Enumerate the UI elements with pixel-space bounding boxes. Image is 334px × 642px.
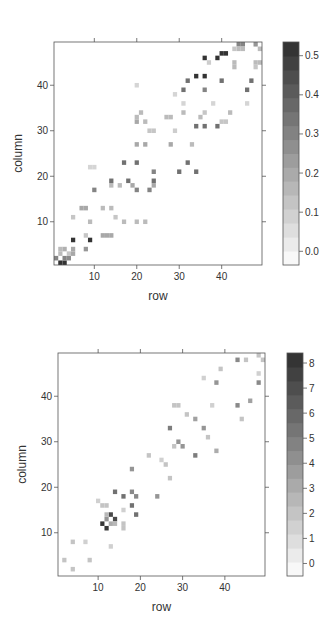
- heatmap-cell: [176, 403, 180, 408]
- colorbar-segment: [283, 84, 299, 98]
- colorbar-segment: [283, 154, 299, 168]
- heatmap-cell: [194, 74, 198, 79]
- heatmap-cell: [135, 83, 139, 88]
- heatmap-cell: [62, 558, 66, 563]
- colorbar-segment: [283, 112, 299, 126]
- y-tick-label: 30: [41, 436, 53, 447]
- colorbar-segment: [283, 126, 299, 140]
- heatmap-cell: [190, 142, 194, 147]
- heatmap-cell: [214, 449, 218, 454]
- heatmap-cell: [172, 403, 176, 408]
- heatmap-cell: [130, 503, 134, 508]
- heatmap-cell: [135, 115, 139, 120]
- colorbar-segment: [287, 465, 303, 479]
- x-tick-label: 30: [177, 582, 189, 593]
- x-tick-label: 10: [89, 271, 101, 282]
- heatmap-cell: [121, 521, 125, 526]
- heatmap-cell: [232, 65, 236, 70]
- colorbar-segment: [287, 478, 303, 492]
- heatmap-cell: [130, 490, 134, 495]
- heatmap-chart-1: 1020304010203040rowcolumn0.00.10.20.30.4…: [11, 38, 319, 303]
- heatmap-cell: [181, 101, 185, 106]
- heatmap-cell: [176, 439, 180, 444]
- heatmap-cell: [224, 119, 228, 124]
- heatmap-cell: [241, 42, 245, 47]
- heatmap-cell: [261, 358, 265, 363]
- y-tick-label: 20: [41, 482, 53, 493]
- colorbar-segment: [283, 251, 299, 265]
- heatmap-cell: [105, 233, 109, 238]
- x-tick-label: 10: [93, 582, 105, 593]
- heatmap-cell: [235, 358, 239, 363]
- heatmap-cell: [147, 128, 151, 133]
- plot-frame: [58, 353, 265, 576]
- heatmap-cell: [219, 367, 223, 372]
- colorbar-segment: [287, 395, 303, 409]
- heatmap-cell: [186, 160, 190, 165]
- x-tick-label: 40: [216, 271, 228, 282]
- heatmap-cell: [249, 78, 253, 83]
- heatmap-cell: [113, 215, 117, 220]
- heatmap-cell: [71, 251, 75, 256]
- x-tick-label: 30: [174, 271, 186, 282]
- plot-frame: [54, 42, 262, 265]
- colorbar-tick-label: 0.5: [305, 50, 319, 61]
- heatmap-cell: [122, 160, 126, 165]
- heatmap-cell: [257, 380, 261, 385]
- heatmap-cell: [224, 51, 228, 56]
- heatmap-cell: [202, 426, 206, 431]
- heatmap-cell: [92, 188, 96, 193]
- heatmap-cell: [258, 60, 262, 65]
- heatmap-cell: [109, 206, 113, 211]
- colorbar-segment: [287, 423, 303, 437]
- heatmap-cell: [100, 521, 104, 526]
- x-tick-label: 20: [135, 582, 147, 593]
- heatmap-cell: [58, 247, 62, 252]
- heatmap-cell: [235, 403, 239, 408]
- colorbar-segment: [283, 209, 299, 223]
- heatmap-cell: [58, 260, 62, 265]
- heatmap-cell: [83, 540, 87, 545]
- heatmap-cell: [248, 399, 252, 404]
- colorbar-segment: [287, 437, 303, 451]
- heatmap-cell: [104, 503, 108, 508]
- heatmap-cell: [155, 494, 159, 499]
- y-tick-label: 10: [37, 216, 49, 227]
- heatmap-cell: [135, 160, 139, 165]
- heatmap-cell: [159, 458, 163, 463]
- heatmap-cell: [254, 42, 258, 47]
- heatmap-cell: [203, 110, 207, 115]
- heatmap-cell: [62, 256, 66, 261]
- heatmap-cell: [96, 499, 100, 504]
- y-axis-label: column: [11, 134, 25, 173]
- heatmap-cell: [203, 124, 207, 129]
- colorbar-tick-label: 4: [309, 458, 315, 469]
- heatmap-cell: [207, 60, 211, 65]
- colorbar-segment: [287, 353, 303, 367]
- heatmap-cell: [206, 435, 210, 440]
- y-axis-label: column: [15, 445, 29, 484]
- heatmap-cell: [220, 51, 224, 56]
- colorbar-tick-label: 3: [309, 483, 315, 494]
- heatmap-chart-2: 1020304010203040rowcolumn012345678: [15, 349, 315, 614]
- heatmap-cell: [193, 453, 197, 458]
- colorbar-segment: [287, 367, 303, 381]
- heatmap-cell: [88, 558, 92, 563]
- heatmap-cell: [88, 219, 92, 224]
- heatmap-cells: [62, 353, 265, 571]
- colorbar-tick-label: 2: [309, 508, 315, 519]
- colorbar-tick-label: 7: [309, 383, 315, 394]
- heatmap-cell: [257, 353, 261, 358]
- heatmap-cell: [134, 494, 138, 499]
- y-tick-label: 10: [41, 527, 53, 538]
- colorbar-segment: [283, 167, 299, 181]
- heatmap-cell: [152, 128, 156, 133]
- heatmap-cell: [143, 219, 147, 224]
- heatmap-cell: [67, 251, 71, 256]
- heatmap-cell: [92, 165, 96, 170]
- heatmap-cell: [203, 56, 207, 61]
- figure: 1020304010203040rowcolumn0.00.10.20.30.4…: [0, 0, 334, 642]
- heatmap-cell: [71, 247, 75, 252]
- heatmap-cell: [177, 169, 181, 174]
- heatmap-cell: [254, 60, 258, 65]
